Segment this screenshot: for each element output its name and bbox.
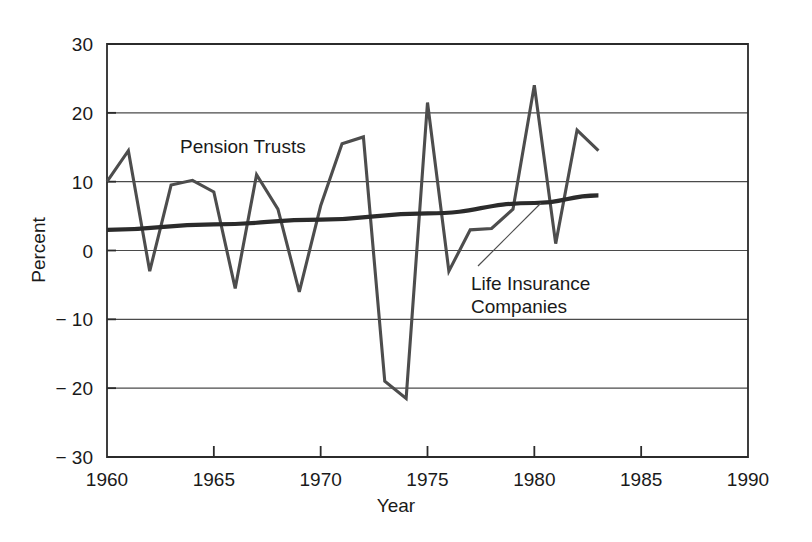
y-tick-label--30: − 30 — [55, 447, 93, 468]
y-tick-label--20: − 20 — [55, 378, 93, 399]
x-tick-label-1970: 1970 — [300, 469, 342, 490]
y-axis-title: Percent — [28, 217, 49, 283]
x-tick-label-1960: 1960 — [86, 469, 128, 490]
x-tick-label-1985: 1985 — [620, 469, 662, 490]
annotation-life-insurance-line1: Life Insurance — [471, 273, 590, 294]
chart-figure: 1960196519701975198019851990 3020100− 10… — [0, 0, 812, 542]
y-tick-label--10: − 10 — [55, 309, 93, 330]
annotation-pension-trusts: Pension Trusts — [180, 136, 306, 157]
x-tick-label-1975: 1975 — [406, 469, 448, 490]
percent-change-line-chart: 1960196519701975198019851990 3020100− 10… — [0, 0, 812, 542]
x-tick-label-1965: 1965 — [193, 469, 235, 490]
annotation-life-insurance-line2: Companies — [471, 296, 567, 317]
x-axis-title: Year — [377, 495, 416, 516]
y-tick-label-0: 0 — [82, 241, 93, 262]
y-tick-label-20: 20 — [72, 103, 93, 124]
chart-background — [0, 0, 812, 542]
x-tick-label-1980: 1980 — [513, 469, 555, 490]
y-tick-label-30: 30 — [72, 34, 93, 55]
x-tick-label-1990: 1990 — [727, 469, 769, 490]
y-tick-label-10: 10 — [72, 172, 93, 193]
